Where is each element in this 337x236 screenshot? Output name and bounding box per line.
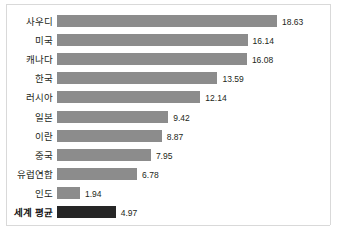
value-label-3: 16.08 [252, 55, 273, 65]
chart-row: 러시아12.14 [0, 88, 337, 107]
category-label-2: 미국 [0, 35, 53, 46]
category-label-8: 중국 [0, 150, 53, 161]
bar-9 [57, 168, 137, 180]
category-label-3: 캐나다 [0, 54, 53, 65]
bar-11 [57, 206, 116, 218]
chart-row: 중국7.95 [0, 146, 337, 165]
plot-area: 사우디18.63미국16.14캐나다16.08한국13.59러시아12.14일본… [0, 0, 337, 236]
chart-row: 캐나다16.08 [0, 50, 337, 69]
value-label-11: 4.97 [121, 208, 138, 218]
bar-10 [57, 187, 80, 199]
value-label-4: 13.59 [222, 74, 243, 84]
chart-row: 이란8.87 [0, 127, 337, 146]
value-label-6: 9.42 [173, 113, 190, 123]
chart-row: 한국13.59 [0, 69, 337, 88]
value-label-7: 8.87 [167, 132, 184, 142]
bar-5 [57, 91, 200, 103]
category-label-9: 유럽연합 [0, 169, 53, 180]
category-label-1: 사우디 [0, 16, 53, 27]
category-label-11: 세계 평균 [0, 207, 53, 218]
category-label-4: 한국 [0, 73, 53, 84]
bar-3 [57, 53, 247, 65]
chart-row: 미국16.14 [0, 31, 337, 50]
category-label-7: 이란 [0, 131, 53, 142]
chart-row: 일본9.42 [0, 108, 337, 127]
bar-4 [57, 72, 217, 84]
value-label-1: 18.63 [282, 17, 303, 27]
value-label-5: 12.14 [205, 93, 226, 103]
category-label-5: 러시아 [0, 92, 53, 103]
value-label-2: 16.14 [253, 36, 274, 46]
bar-7 [57, 130, 162, 142]
bar-chart: 사우디18.63미국16.14캐나다16.08한국13.59러시아12.14일본… [0, 0, 337, 236]
category-label-6: 일본 [0, 112, 53, 123]
bar-1 [57, 15, 277, 27]
bar-8 [57, 149, 151, 161]
value-label-8: 7.95 [156, 151, 173, 161]
category-label-10: 인도 [0, 188, 53, 199]
bar-6 [57, 111, 168, 123]
chart-row: 인도1.94 [0, 184, 337, 203]
value-label-9: 6.78 [142, 170, 159, 180]
chart-row: 사우디18.63 [0, 12, 337, 31]
value-label-10: 1.94 [85, 189, 102, 199]
chart-row: 세계 평균4.97 [0, 203, 337, 222]
bar-2 [57, 34, 248, 46]
chart-row: 유럽연합6.78 [0, 165, 337, 184]
